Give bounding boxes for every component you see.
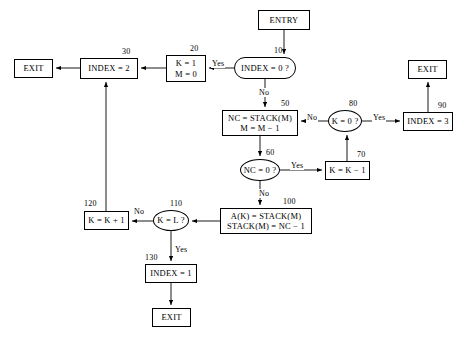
node-n30: INDEX = 2 <box>80 58 138 79</box>
node-n110: K = L ? <box>153 210 189 231</box>
step-number-label: 60 <box>266 148 274 157</box>
branch-label: Yes <box>211 59 225 68</box>
step-number-label: 120 <box>84 199 97 208</box>
node-n90: INDEX = 3 <box>403 112 453 131</box>
node-n70-line: K = K − 1 <box>329 165 365 175</box>
node-exitR-line: EXIT <box>417 64 437 74</box>
node-n20: K = 1M = 0 <box>166 55 206 82</box>
node-n50-line: M = M − 1 <box>240 123 279 133</box>
node-n100-line: A(K) = STACK(M) <box>231 211 301 221</box>
step-number-label: 80 <box>349 99 357 108</box>
step-number-label: 70 <box>357 150 365 159</box>
node-exitB: EXIT <box>152 308 191 327</box>
node-n30-line: INDEX = 2 <box>88 63 130 73</box>
node-n80-line: K = 0 ? <box>332 116 359 126</box>
step-number-label: 100 <box>283 197 296 206</box>
node-entry: ENTRY <box>258 10 310 30</box>
connector-layer <box>0 0 466 340</box>
node-n50: NC = STACK(M)M = M − 1 <box>222 110 298 136</box>
node-n100: A(K) = STACK(M)STACK(M) = NC − 1 <box>220 208 312 234</box>
node-exitL: EXIT <box>14 59 53 78</box>
node-n50-line: NC = STACK(M) <box>228 113 292 123</box>
step-number-label: 110 <box>170 199 182 208</box>
node-n110-line: K = L ? <box>157 215 184 225</box>
branch-label: Yes <box>174 245 188 254</box>
branch-label: No <box>133 207 145 216</box>
node-n60-line: NC = 0 ? <box>244 165 277 175</box>
branch-label: No <box>258 189 270 198</box>
node-n130: INDEX = 1 <box>145 264 197 283</box>
step-number-label: 10 <box>274 46 282 55</box>
branch-label: Yes <box>372 113 386 122</box>
step-number-label: 130 <box>145 253 158 262</box>
node-n100-line: STACK(M) = NC − 1 <box>227 221 305 231</box>
node-n20-line: M = 0 <box>175 69 197 79</box>
branch-label: No <box>258 88 270 97</box>
node-n60: NC = 0 ? <box>240 159 280 181</box>
node-n20-line: K = 1 <box>176 58 196 68</box>
node-exitR: EXIT <box>408 60 447 79</box>
node-n120: K = K + 1 <box>84 211 129 230</box>
step-number-label: 30 <box>122 47 130 56</box>
node-exitB-line: EXIT <box>161 312 181 322</box>
step-number-label: 90 <box>438 101 446 110</box>
flowchart-canvas: ENTRYINDEX = 0 ?K = 1M = 0INDEX = 2EXITN… <box>0 0 466 340</box>
node-n130-line: INDEX = 1 <box>150 268 192 278</box>
node-n120-line: K = K + 1 <box>88 215 124 225</box>
step-number-label: 50 <box>281 99 289 108</box>
branch-label: Yes <box>290 161 304 170</box>
node-n10-line: INDEX = 0 ? <box>241 63 289 73</box>
node-n80: K = 0 ? <box>328 110 362 132</box>
node-n70: K = K − 1 <box>325 161 370 180</box>
branch-label: No <box>306 113 318 122</box>
node-n90-line: INDEX = 3 <box>407 116 449 126</box>
node-entry-line: ENTRY <box>270 15 299 25</box>
node-n10: INDEX = 0 ? <box>234 57 296 79</box>
node-exitL-line: EXIT <box>23 63 43 73</box>
step-number-label: 20 <box>190 44 198 53</box>
